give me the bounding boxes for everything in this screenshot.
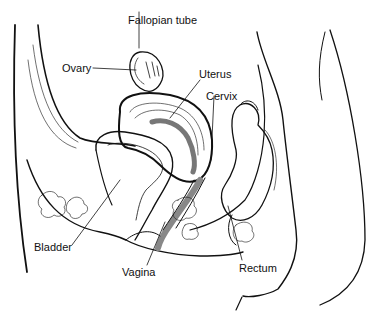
label-ovary: Ovary [62, 62, 91, 74]
anatomy-diagram: Fallopian tube Ovary Uterus Cervix Bladd… [0, 0, 387, 320]
label-fallopian-tube: Fallopian tube [128, 14, 197, 26]
label-rectum: Rectum [239, 262, 277, 274]
label-uterus: Uterus [199, 68, 231, 80]
label-cervix: Cervix [206, 90, 237, 102]
label-vagina: Vagina [122, 266, 155, 278]
label-bladder: Bladder [34, 241, 72, 253]
pelvic-anatomy-illustration [0, 0, 387, 320]
